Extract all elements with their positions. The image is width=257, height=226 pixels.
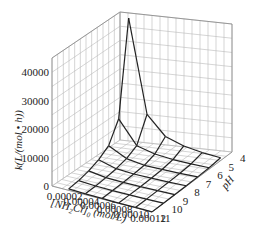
z-tick-label: 40000 (22, 66, 50, 78)
surface-chart: 010000200003000040000 0.000020.000040.00… (0, 0, 257, 226)
y-tick-label: 7 (206, 178, 212, 190)
back-left-wall-grid (52, 12, 120, 186)
y-tick-label: 5 (229, 161, 235, 173)
y-tick-label: 10 (171, 203, 183, 215)
y-tick-label: 4 (240, 152, 246, 164)
z-axis-ticks: 010000200003000040000 (22, 66, 50, 192)
y-axis-ticks: 4567891011 (160, 152, 246, 224)
z-axis-label: k(L/(mol • h)) (12, 110, 25, 170)
y-tick-label: 11 (160, 212, 171, 224)
z-tick-label: 10000 (22, 152, 50, 164)
y-tick-label: 8 (194, 186, 200, 198)
back-right-wall-grid (120, 12, 232, 152)
y-tick-label: 9 (183, 195, 189, 207)
z-tick-label: 20000 (22, 123, 50, 135)
z-tick-label: 30000 (22, 95, 50, 107)
